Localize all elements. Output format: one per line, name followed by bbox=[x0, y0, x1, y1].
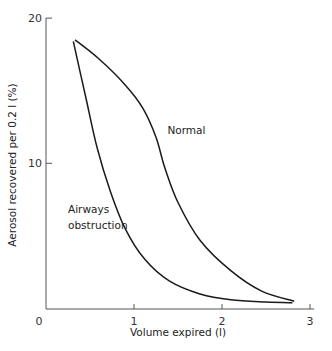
series bbox=[73, 40, 294, 303]
y-axis-label: Aerosol recovered per 0.2 l (%) bbox=[6, 83, 18, 246]
y-tick-label: 20 bbox=[28, 12, 42, 25]
x-axis-label: Volume expired (l) bbox=[130, 326, 226, 338]
axes bbox=[46, 18, 314, 309]
series-line-airways-obstruction bbox=[73, 41, 292, 302]
annotation-label: Normal bbox=[167, 124, 205, 136]
annotation-label: obstruction bbox=[68, 219, 128, 231]
series-line-normal bbox=[75, 40, 294, 301]
x-tick-label: 0 bbox=[36, 315, 43, 328]
x-tick-label: 3 bbox=[307, 315, 314, 328]
annotation-label: Airways bbox=[68, 203, 109, 215]
ticks: 01231020 bbox=[28, 12, 314, 328]
y-tick-label: 10 bbox=[28, 157, 42, 170]
chart: 01231020 NormalAirwaysobstruction Volume… bbox=[0, 0, 332, 351]
